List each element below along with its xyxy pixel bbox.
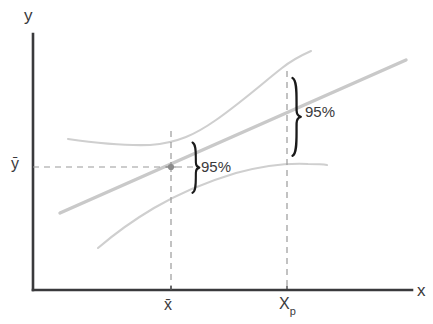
ci-prediction-label: 95% bbox=[305, 104, 335, 119]
x-axis-label: x bbox=[417, 282, 426, 299]
lower-confidence-band-curve bbox=[98, 164, 327, 248]
fitted-regression-line bbox=[60, 60, 406, 213]
brace-ci-at-xp bbox=[293, 78, 301, 156]
y-tick-label-ybar: ȳ bbox=[11, 156, 19, 172]
x-tick-label-xp-subscript: p bbox=[290, 305, 296, 317]
guide-lines-group bbox=[33, 71, 287, 290]
x-tick-label-xp-base: X bbox=[279, 295, 290, 312]
x-tick-label-xp: Xp bbox=[279, 296, 296, 315]
ci-mean-label: 95% bbox=[201, 159, 231, 174]
regression-diagram: y x ȳ x̄ Xp 95% 95% bbox=[0, 0, 433, 324]
x-tick-label-xbar: x̄ bbox=[164, 297, 172, 313]
y-axis-label: y bbox=[24, 7, 33, 24]
upper-confidence-band-curve bbox=[68, 51, 311, 145]
